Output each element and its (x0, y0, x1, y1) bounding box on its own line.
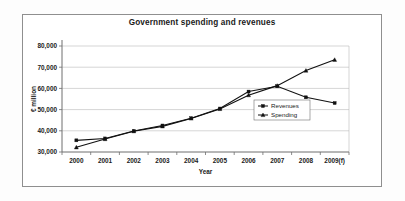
x-tick-label: 2007 (270, 157, 285, 164)
x-axis-title: Year (199, 168, 213, 175)
y-tick-label: 50,000 (37, 106, 57, 114)
data-point-revenues (75, 139, 78, 142)
x-tick-label: 2008 (299, 157, 314, 164)
x-tick-label: 2006 (241, 157, 256, 164)
x-tick-label: 2001 (98, 157, 113, 164)
legend-label-spending: Spending (271, 111, 298, 118)
x-tick-label: 2005 (213, 157, 228, 164)
data-point-revenues (304, 96, 307, 99)
legend-marker-revenues (262, 105, 265, 108)
data-point-revenues (247, 90, 250, 93)
y-tick-label: 70,000 (37, 64, 57, 72)
x-tick-label: 2002 (127, 157, 142, 164)
line-chart: 30,00040,00050,00060,00070,00080,0002000… (22, 14, 382, 187)
data-point-revenues (333, 102, 336, 105)
x-tick-label: 2009(f) (324, 157, 345, 165)
screenshot-canvas: Government spending and revenues 30,0004… (0, 0, 405, 201)
x-tick-label: 2003 (155, 157, 170, 164)
x-tick-label: 2004 (184, 157, 199, 164)
legend-label-revenues: Revenues (271, 102, 299, 109)
y-tick-label: 40,000 (37, 127, 57, 135)
y-tick-label: 80,000 (37, 42, 57, 50)
y-tick-label: 30,000 (37, 148, 57, 156)
x-tick-label: 2000 (69, 157, 84, 164)
y-axis-title: € million (30, 86, 37, 112)
data-point-spending (333, 58, 337, 62)
y-tick-label: 60,000 (37, 85, 57, 93)
